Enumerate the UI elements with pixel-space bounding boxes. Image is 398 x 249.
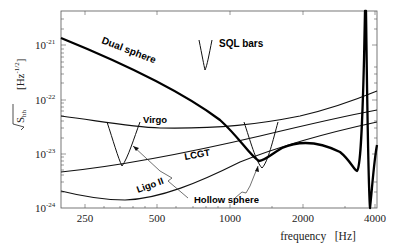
arrow-head-icon [255,166,259,172]
svg-text:10-22: 10-22 [35,93,56,106]
svg-text:10-24: 10-24 [35,201,56,214]
svg-text:4000: 4000 [364,212,387,224]
svg-text:2000: 2000 [292,212,315,224]
sql-bars-legend-glyph [199,40,212,70]
svg-text:10-21: 10-21 [35,38,56,51]
virgo-curve [61,91,377,128]
ligo-curve [61,122,377,200]
x-tick-labels: 250 500 1000 2000 4000 [77,212,387,224]
sql-bars-label: SQL bars [219,38,264,49]
y-tick-labels: 10-21 10-22 10-23 10-24 [35,38,56,214]
svg-text:Shh: Shh [14,109,28,123]
lcgt-label: LCGT [183,147,211,162]
hollow-sphere-bar-low [107,122,140,166]
x-axis-label: frequency [Hz] [280,230,356,243]
chart: Dual sphere SQL bars Virgo LCGT Ligo II … [0,0,398,249]
svg-text:[Hz-1/2]: [Hz-1/2] [13,59,26,90]
svg-text:250: 250 [77,212,94,224]
y-axis-label: Shh [Hz-1/2] [13,59,28,130]
hollow-sphere-label: Hollow sphere [194,194,259,205]
ligo-label: Ligo II [135,175,165,195]
svg-text:500: 500 [149,212,166,224]
svg-text:1000: 1000 [219,212,242,224]
svg-text:10-23: 10-23 [35,147,56,160]
virgo-label: Virgo [143,114,167,125]
dual-sphere-label: Dual sphere [100,35,158,66]
